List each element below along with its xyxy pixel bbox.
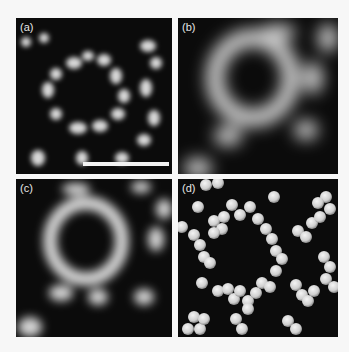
panel-c-image	[16, 179, 172, 337]
panel-label-a: (a)	[20, 21, 33, 33]
panel-a: (a)	[16, 18, 172, 174]
panel-label-c: (c)	[20, 182, 33, 194]
panel-d-image	[178, 179, 338, 337]
panel-a-image	[16, 18, 172, 174]
panel-label-b: (b)	[182, 21, 195, 33]
panel-label-d: (d)	[182, 182, 195, 194]
scale-bar	[83, 162, 169, 166]
panel-b-image	[178, 18, 338, 174]
panel-d: (d)	[178, 179, 338, 337]
panel-b: (b)	[178, 18, 338, 174]
panel-c: (c)	[16, 179, 172, 337]
